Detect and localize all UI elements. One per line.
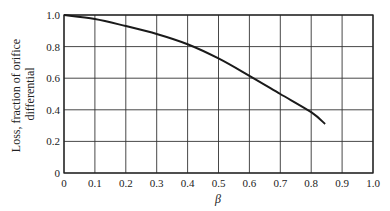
y-tick-label: 0.8 xyxy=(46,41,60,53)
x-tick-label: 1.0 xyxy=(366,177,380,189)
x-tick-label: 0.3 xyxy=(150,177,164,189)
y-tick-label: 0 xyxy=(55,167,61,179)
loss-vs-beta-chart: 00.20.40.60.81.0 00.10.20.30.40.50.60.70… xyxy=(0,0,390,211)
x-tick-label: 0.7 xyxy=(273,177,287,189)
y-tick-label: 0.6 xyxy=(46,72,60,84)
x-tick-label: 0.6 xyxy=(243,177,257,189)
x-tick-label: 0.9 xyxy=(335,177,349,189)
x-tick-label: 0.2 xyxy=(119,177,133,189)
y-axis-ticks: 00.20.40.60.81.0 xyxy=(46,9,60,179)
grid-lines xyxy=(64,15,373,173)
y-tick-label: 0.2 xyxy=(46,135,60,147)
x-axis-ticks: 00.10.20.30.40.50.60.70.80.91.0 xyxy=(61,177,380,189)
y-axis-label: Loss, fraction of orifice differential xyxy=(9,36,37,152)
y-tick-label: 0.4 xyxy=(46,104,60,116)
y-tick-label: 1.0 xyxy=(46,9,60,21)
x-tick-label: 0.5 xyxy=(212,177,226,189)
x-tick-label: 0.4 xyxy=(181,177,195,189)
x-tick-label: 0.1 xyxy=(88,177,102,189)
x-tick-label: 0 xyxy=(61,177,67,189)
x-axis-label: β xyxy=(214,192,221,206)
x-tick-label: 0.8 xyxy=(304,177,318,189)
loss-curve xyxy=(64,15,325,124)
